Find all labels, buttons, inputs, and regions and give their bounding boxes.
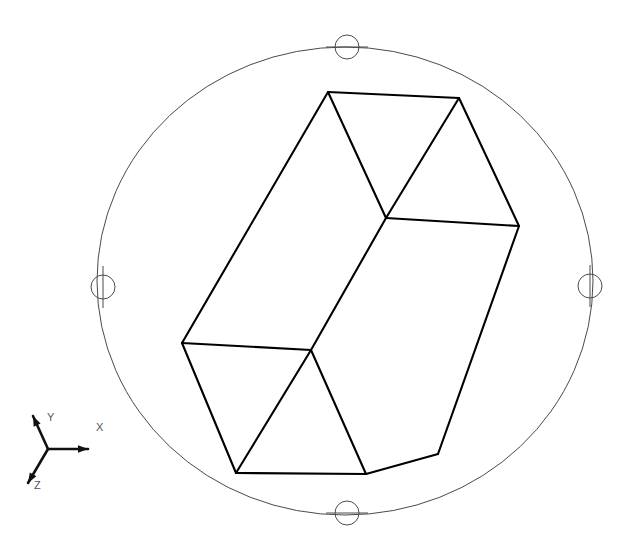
- edge-lower-inner-right[interactable]: [311, 350, 366, 474]
- orbit-ring[interactable]: [97, 47, 593, 515]
- axis-lines-group: [28, 416, 88, 483]
- axis-labels-group: XYZ: [34, 411, 104, 491]
- orbit-handle-bottom[interactable]: [326, 501, 368, 525]
- axis-triad-indicator: XYZ: [28, 411, 104, 491]
- orbit-gizmo-group[interactable]: [91, 35, 602, 525]
- edge-left-long[interactable]: [182, 92, 328, 343]
- edge-top-right-slope[interactable]: [459, 98, 519, 226]
- axis-y-label: Y: [47, 411, 55, 423]
- axis-z-label: Z: [34, 479, 41, 491]
- edge-left-down[interactable]: [182, 343, 236, 473]
- orbit-handle-top[interactable]: [326, 35, 368, 59]
- orbit-handle-left[interactable]: [91, 266, 115, 308]
- edge-center-to-topright[interactable]: [386, 98, 459, 218]
- edge-bottom-ridge[interactable]: [236, 473, 366, 474]
- orbit-handles-group[interactable]: [91, 35, 602, 525]
- edge-lower-horiz[interactable]: [182, 343, 311, 350]
- 3d-model-viewport[interactable]: XYZ: [0, 0, 631, 556]
- viewport-canvas[interactable]: XYZ: [0, 0, 631, 556]
- edge-center-horiz[interactable]: [386, 218, 519, 226]
- model-wireframe-group[interactable]: [182, 92, 519, 474]
- axis-x-arrowhead: [78, 445, 88, 453]
- edge-top-inner-slope[interactable]: [328, 92, 386, 218]
- edge-top-ridge[interactable]: [328, 92, 459, 98]
- edge-center-long[interactable]: [311, 218, 386, 350]
- axis-x-label: X: [96, 421, 104, 433]
- orbit-handle-right[interactable]: [578, 265, 602, 307]
- edge-right-long[interactable]: [438, 226, 519, 454]
- edge-lower-inner-left[interactable]: [236, 350, 311, 473]
- edge-bottom-right-up[interactable]: [366, 454, 438, 474]
- axis-y-arrowhead: [33, 416, 41, 427]
